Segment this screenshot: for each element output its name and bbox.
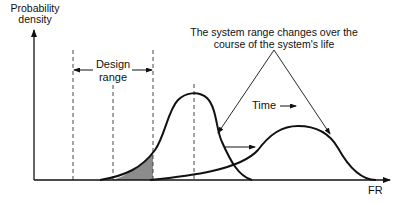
- later-system-range-curve: [150, 126, 376, 180]
- annotation-line2: course of the system's life: [184, 38, 364, 50]
- time-label: Time: [252, 100, 276, 111]
- annotation-pointer-left: [218, 50, 274, 133]
- annotation-line1: The system range changes over the: [184, 26, 364, 38]
- design-range-label-line1: Design: [93, 58, 133, 71]
- annotation-pointer-right: [274, 50, 330, 134]
- design-range-label: Design range: [93, 58, 133, 84]
- system-range-annotation: The system range changes over the course…: [184, 26, 364, 50]
- y-axis-label: Probability density: [4, 3, 66, 25]
- design-range-label-line2: range: [93, 71, 133, 84]
- y-axis-label-line2: density: [4, 14, 66, 25]
- x-axis-label: FR: [368, 185, 383, 196]
